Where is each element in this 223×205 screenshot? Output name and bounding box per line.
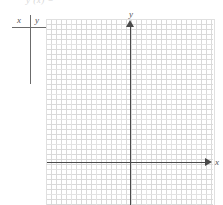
y-axis-line — [130, 26, 131, 205]
x-axis-label: x — [215, 157, 219, 167]
y-axis-arrow-icon — [126, 20, 134, 27]
table-column-divider — [30, 15, 31, 84]
worksheet-figure: y (x) = x y x y — [0, 0, 223, 205]
table-column-header-y: y — [35, 14, 39, 27]
x-axis-line — [47, 162, 207, 163]
table-column-header-x: x — [17, 14, 21, 27]
x-axis-arrow-icon — [205, 158, 212, 166]
y-axis-label: y — [129, 9, 133, 19]
clipped-header-text: y (x) = — [26, 0, 54, 5]
value-table: x y — [12, 14, 48, 84]
